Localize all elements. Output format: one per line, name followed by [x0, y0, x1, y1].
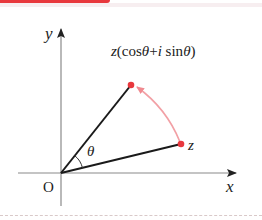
origin-label: O: [43, 179, 54, 195]
vector-z-rotated: [61, 85, 131, 173]
point-z-rotated: [128, 82, 135, 89]
point-z: [178, 141, 185, 148]
rotation-arc: [137, 87, 180, 142]
angle-label: θ: [87, 143, 95, 159]
point-z-rotated-label: z(cosθ+i sinθ): [110, 43, 196, 60]
angle-arc: [75, 156, 83, 169]
complex-rotation-diagram: y x O θ z z(cosθ+i sinθ): [0, 0, 262, 220]
footer-divider: [0, 215, 262, 216]
vector-z: [61, 144, 181, 173]
y-axis-label: y: [43, 24, 53, 43]
point-z-label: z: [187, 137, 194, 153]
x-axis-label: x: [225, 177, 234, 196]
